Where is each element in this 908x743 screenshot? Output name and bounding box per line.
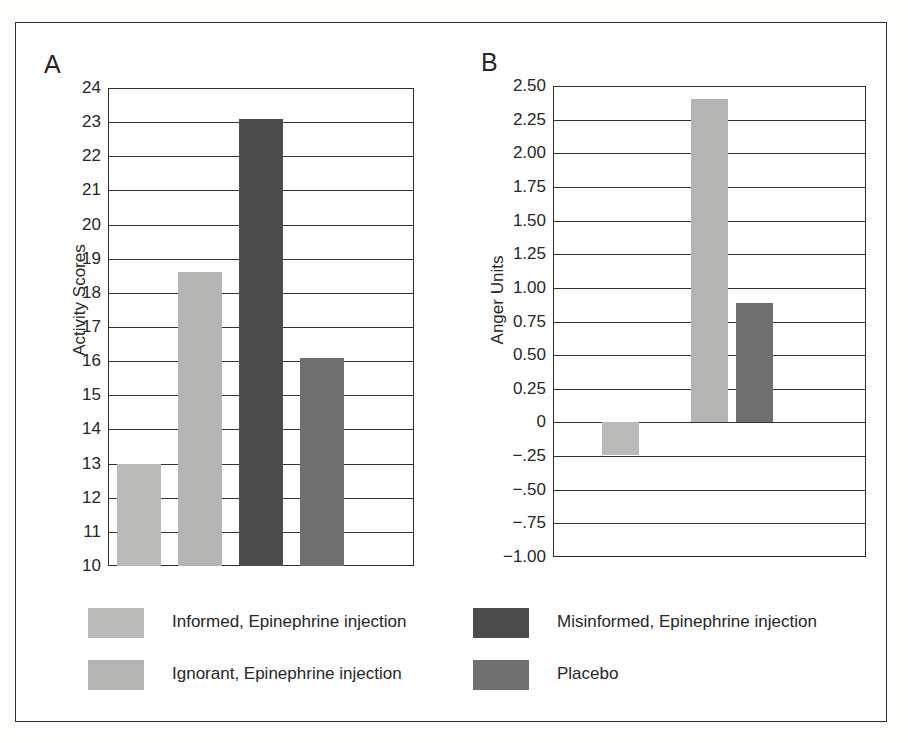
y-tick-label: 1.50 [494,212,546,229]
legend: Informed, Epinephrine injectionIgnorant,… [0,0,908,120]
y-tick-label: 0.25 [494,380,546,397]
legend-label: Misinformed, Epinephrine injection [557,612,817,632]
panel-b-y-axis-title: Anger Units [488,200,508,400]
y-tick-label: 0.75 [494,313,546,330]
y-tick-label: 2.00 [494,144,546,161]
legend-swatch-placebo [473,660,529,690]
y-tick-label: −.25 [494,447,546,464]
y-tick-label: 0.50 [494,346,546,363]
bar [602,422,639,454]
bar [691,99,728,422]
gridline [553,523,866,524]
y-tick-label: 18 [71,284,101,301]
y-tick-label: 17 [71,318,101,335]
bar [117,464,161,566]
y-tick-label: 12 [71,489,101,506]
legend-label: Placebo [557,664,618,684]
y-tick-label: 14 [71,420,101,437]
y-tick-label: 10 [71,557,101,574]
bar [178,272,222,566]
y-tick-label: −.75 [494,514,546,531]
y-tick-label: 20 [71,216,101,233]
bar [300,358,344,566]
bar [736,303,773,423]
y-tick-label: 22 [71,147,101,164]
y-tick-label: −1.00 [494,548,546,565]
legend-swatch-informed [88,608,144,638]
y-tick-label: 16 [71,352,101,369]
y-tick-label: 0 [494,413,546,430]
legend-label: Informed, Epinephrine injection [172,612,406,632]
figure-root: A Activity Scores 1011121314151617181920… [0,0,908,743]
gridline [553,490,866,491]
legend-swatch-ignorant [88,660,144,690]
y-tick-label: 21 [71,181,101,198]
y-tick-label: 1.25 [494,245,546,262]
y-tick-label: 19 [71,250,101,267]
bar [239,119,283,566]
gridline [553,422,866,423]
y-tick-label: 15 [71,386,101,403]
legend-label: Ignorant, Epinephrine injection [172,664,402,684]
legend-swatch-misinformed [473,608,529,638]
y-tick-label: 11 [71,523,101,540]
y-tick-label: −.50 [494,481,546,498]
y-tick-label: 1.75 [494,178,546,195]
y-tick-label: 13 [71,455,101,472]
gridline [553,456,866,457]
y-tick-label: 1.00 [494,279,546,296]
